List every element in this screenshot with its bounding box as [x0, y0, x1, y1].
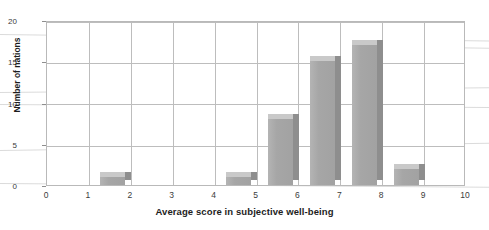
x-tick-label-5: 5	[243, 190, 269, 200]
bar-bin-1-2	[100, 177, 125, 185]
x-tick-label-4: 4	[201, 190, 227, 200]
bar-face	[268, 119, 293, 185]
bar-bin-7-8	[352, 45, 377, 185]
x-tick-label-6: 6	[284, 190, 310, 200]
bar-face	[310, 61, 335, 185]
bar-side-face	[335, 56, 341, 180]
bar-bin-4-5	[226, 177, 251, 185]
x-tick-label-1: 1	[75, 190, 101, 200]
bar-side-face	[293, 114, 299, 180]
x-tick-label-3: 3	[159, 190, 185, 200]
y-tick-mark-0	[42, 186, 46, 187]
bar-top-face	[100, 172, 125, 177]
bar-top-face	[226, 172, 251, 177]
x-tick-label-7: 7	[326, 190, 352, 200]
x-tick-label-8: 8	[368, 190, 394, 200]
x-tick-label-2: 2	[117, 190, 143, 200]
bar-top-face	[310, 56, 335, 61]
bar-bin-6-7	[310, 61, 335, 185]
x-axis-title: Average score in subjective well-being	[0, 206, 489, 217]
gridline-x-3	[173, 22, 174, 185]
y-axis-title: Number of nations	[12, 20, 22, 130]
gridline-x-1	[89, 22, 90, 185]
histogram-figure: 20 15 10 5 0 Number of nations	[0, 0, 489, 230]
y-tick-label-0: 0	[0, 182, 17, 191]
bar-face	[226, 177, 251, 185]
bar-bin-8-9	[394, 169, 419, 186]
bar-face	[352, 45, 377, 185]
bar-side-face	[125, 172, 131, 180]
bar-face	[394, 169, 419, 186]
gridline-y-15	[47, 63, 464, 64]
bar-top-face	[352, 40, 377, 45]
bar-side-face	[251, 172, 257, 180]
gridline-x-9	[424, 22, 425, 185]
x-tick-label-0: 0	[33, 190, 59, 200]
bar-bin-5-6	[268, 119, 293, 185]
gridline-y-10	[47, 104, 464, 105]
x-tick-label-9: 9	[410, 190, 436, 200]
gridline-y-20	[47, 22, 464, 23]
bar-side-face	[419, 164, 425, 181]
bar-side-face	[377, 40, 383, 180]
bar-top-face	[394, 164, 419, 169]
bar-face	[100, 177, 125, 185]
gridline-x-4	[215, 22, 216, 185]
gridline-x-5	[257, 22, 258, 185]
gridline-x-2	[131, 22, 132, 185]
y-tick-label-5: 5	[0, 141, 17, 150]
gridline-y-5	[47, 146, 464, 147]
x-tick-label-10: 10	[452, 190, 478, 200]
plot-area	[46, 21, 465, 186]
bar-top-face	[268, 114, 293, 119]
